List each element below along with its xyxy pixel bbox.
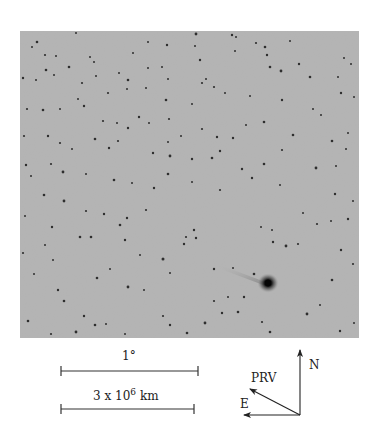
distance-scale-unit: km [140, 389, 159, 403]
distance-scale-label: 3 x 106 km [93, 387, 159, 403]
angular-scale-label: 1° [122, 349, 136, 363]
prv-label: PRV [251, 371, 276, 385]
distance-scale-base: 3 x 10 [93, 389, 130, 403]
comet-figure: 1° 3 x 106 km N PRV E [0, 0, 377, 438]
angular-scale-bar [61, 366, 198, 376]
east-label: E [240, 397, 249, 411]
annotation-layer [0, 0, 377, 438]
north-label: N [309, 358, 320, 372]
distance-scale-exponent: 6 [130, 387, 136, 397]
prv-arrow [250, 389, 300, 415]
distance-scale-bar [61, 404, 194, 414]
